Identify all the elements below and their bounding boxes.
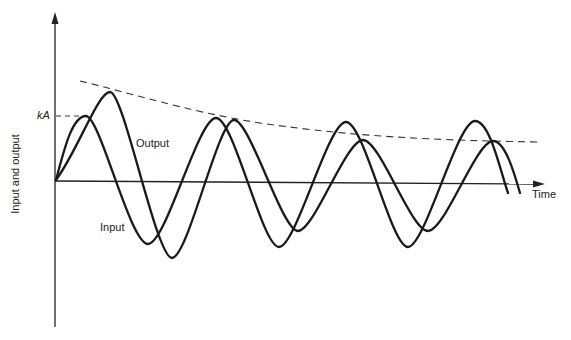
- y-axis-arrow-icon: [52, 12, 59, 24]
- ka-label: kA: [37, 109, 50, 121]
- y-axis-label: Input and output: [9, 134, 21, 214]
- output-label: Output: [136, 137, 169, 149]
- x-axis-arrow-icon: [533, 181, 545, 188]
- envelope-dashed-curve: [80, 81, 540, 142]
- x-axis-label: Time: [532, 188, 556, 200]
- response-diagram: [0, 0, 571, 340]
- input-label: Input: [100, 221, 124, 233]
- output-curve: [56, 92, 520, 258]
